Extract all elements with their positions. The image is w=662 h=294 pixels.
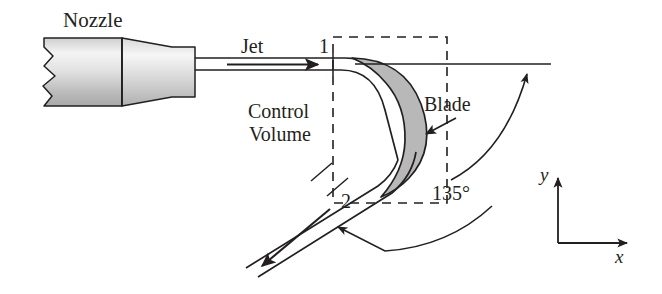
control-volume-boundary xyxy=(333,37,447,203)
blade-pointer-arrow xyxy=(426,118,456,134)
coordinate-axes xyxy=(558,178,627,243)
station-tick-marks xyxy=(311,53,348,196)
jet-stream-outlet xyxy=(246,152,416,277)
jet-label: Jet xyxy=(241,36,263,56)
deflection-angle-label: 135° xyxy=(432,183,470,203)
control-volume-label-line1: Control xyxy=(248,101,309,121)
control-volume-label-line2: Volume xyxy=(249,124,311,144)
station-1-label: 1 xyxy=(319,36,329,56)
diagram-canvas xyxy=(0,0,662,294)
station-2-label: 2 xyxy=(341,191,351,211)
y-axis-label: y xyxy=(540,165,548,184)
blade-label: Blade xyxy=(424,94,471,114)
x-axis-label: x xyxy=(615,247,623,266)
jet-blade-diagram: Nozzle Jet 1 Control Volume Blade 2 135°… xyxy=(0,0,662,294)
nozzle-body xyxy=(43,38,195,106)
nozzle-label: Nozzle xyxy=(63,10,122,31)
